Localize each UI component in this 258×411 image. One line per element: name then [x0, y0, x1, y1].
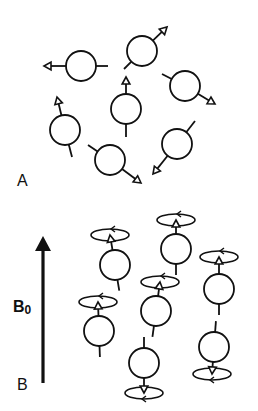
spin-a-3 [162, 71, 215, 104]
panel-a-random-spins [44, 27, 215, 183]
spin-a-7 [153, 121, 195, 174]
field-label-main: B [13, 298, 25, 315]
panel-b-aligned-spins [79, 211, 238, 402]
field-label-subscript: 0 [25, 303, 32, 317]
precessing-spin-b-6 [125, 337, 163, 402]
spin-a-5 [50, 97, 80, 157]
spin-a-6 [88, 145, 141, 183]
spin-a-4 [111, 77, 141, 137]
precessing-spin-b-2 [157, 211, 195, 275]
precessing-spin-b-7 [193, 321, 231, 383]
spin-a-1 [44, 51, 108, 81]
spin-diagram [0, 0, 258, 411]
precessing-spin-b-1 [91, 226, 130, 291]
precessing-spin-b-5 [79, 293, 117, 357]
precessing-spin-b-4 [141, 273, 179, 337]
spin-a-2 [124, 27, 167, 69]
b0-field-label: B0 [13, 298, 31, 317]
panel-a-label: A [17, 172, 28, 190]
precessing-spin-b-3 [200, 248, 238, 315]
panel-b-label: B [17, 376, 28, 394]
b0-field-arrow-icon [35, 236, 51, 383]
